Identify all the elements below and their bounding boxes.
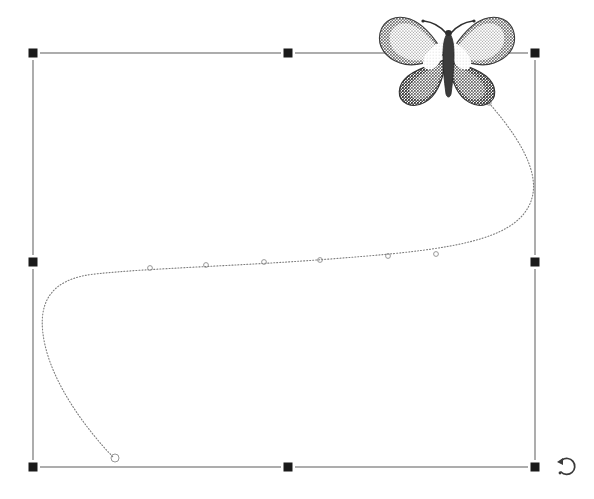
butterfly-antenna-left-tip xyxy=(421,19,424,22)
handle-middle-left[interactable] xyxy=(29,258,38,267)
rotate-arc-icon[interactable] xyxy=(561,458,575,474)
handle-top-left[interactable] xyxy=(29,49,38,58)
path-node[interactable] xyxy=(148,266,153,271)
butterfly-clipart[interactable] xyxy=(379,17,514,105)
path-node-end[interactable] xyxy=(111,454,119,462)
handle-top-center[interactable] xyxy=(284,49,293,58)
motion-path[interactable] xyxy=(42,101,533,462)
butterfly-antenna-right-tip xyxy=(472,19,475,22)
vector-canvas[interactable]: Selected object Animation motion path Bu… xyxy=(0,0,594,499)
handle-middle-right[interactable] xyxy=(531,258,540,267)
rotate-cursor-dot-icon xyxy=(559,472,562,475)
path-node[interactable] xyxy=(434,252,439,257)
selection-frame xyxy=(26,46,542,474)
butterfly-body xyxy=(443,34,454,97)
handle-bottom-center[interactable] xyxy=(284,463,293,472)
path-node[interactable] xyxy=(262,260,267,265)
selection-bounding-box xyxy=(33,53,535,467)
artboard[interactable] xyxy=(0,0,594,499)
handle-bottom-right[interactable] xyxy=(531,463,540,472)
rotate-arrowhead-icon[interactable] xyxy=(557,458,563,465)
handle-bottom-left[interactable] xyxy=(29,463,38,472)
motion-path-curve[interactable] xyxy=(42,103,533,458)
handle-top-right[interactable] xyxy=(531,49,540,58)
rotate-cursor[interactable] xyxy=(557,458,575,474)
